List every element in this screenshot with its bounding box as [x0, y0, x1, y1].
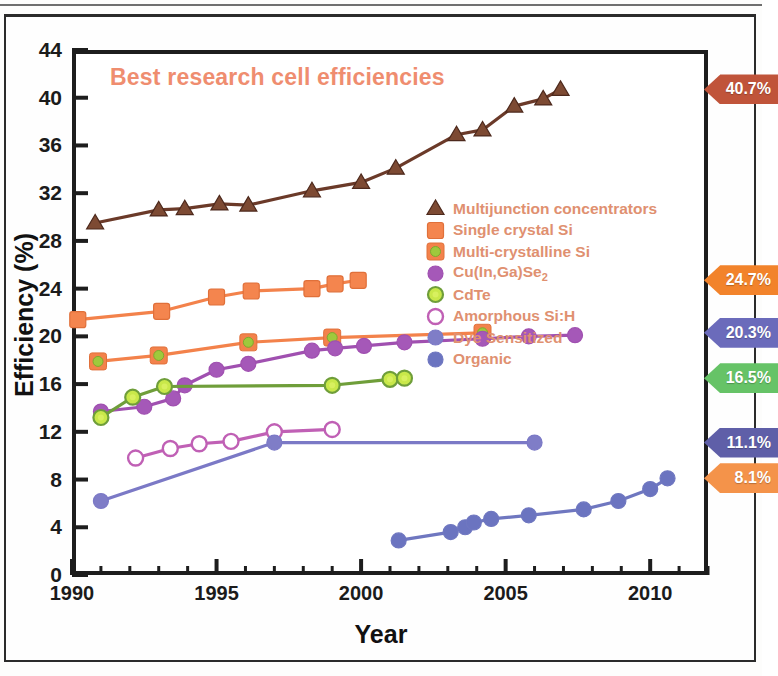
legend-item-3[interactable]: Multi-crystalline Si [427, 241, 657, 263]
legend-item-7[interactable]: Dye Sensitized [427, 327, 657, 349]
series-2 [70, 272, 366, 327]
y-tick-label: 28 [39, 229, 62, 253]
y-axis-tick-labels: 048121620242832364044 [0, 50, 62, 575]
data-point [428, 330, 443, 345]
data-point [93, 356, 103, 366]
legend-label: Multi-crystalline Si [453, 243, 590, 261]
legend-marker-icon [427, 308, 444, 325]
legend-marker-icon [427, 351, 444, 368]
y-tick-label: 44 [39, 38, 62, 62]
data-point [328, 341, 343, 356]
data-point [521, 508, 536, 523]
x-tick-label: 1990 [50, 582, 95, 605]
data-point [70, 312, 86, 328]
annotation-label: 40.7% [726, 80, 771, 98]
legend-marker-icon [427, 200, 444, 217]
data-point [304, 281, 320, 297]
data-point [643, 482, 658, 497]
annotation-label: 20.3% [726, 324, 771, 342]
data-point [267, 435, 282, 450]
data-point [224, 434, 239, 449]
legend-label: Organic [453, 350, 512, 368]
page-scan-line [0, 4, 762, 6]
x-tick-label: 2000 [339, 582, 384, 605]
legend-item-2[interactable]: Single crystal Si [427, 220, 657, 242]
data-point [209, 362, 224, 377]
data-point [154, 350, 164, 360]
data-point [387, 160, 404, 175]
data-point [163, 441, 178, 456]
annotation-label: 24.7% [726, 271, 771, 289]
y-tick-label: 40 [39, 86, 62, 110]
data-point [660, 471, 675, 486]
legend-marker-icon [427, 222, 444, 239]
data-point [535, 90, 552, 105]
legend-label: Cu(In,Ga)Se2 [453, 263, 548, 283]
data-point [466, 515, 481, 530]
data-point [93, 494, 108, 509]
data-point [130, 394, 136, 400]
y-tick-label: 4 [50, 515, 62, 539]
data-point [329, 382, 335, 388]
legend-marker-icon [427, 265, 444, 282]
chart-title: Best research cell efficiencies [110, 64, 445, 91]
legend-label: Dye Sensitized [453, 329, 562, 347]
legend-item-6[interactable]: Amorphous Si:H [427, 306, 657, 328]
y-tick-label: 20 [39, 324, 62, 348]
data-point [527, 435, 542, 450]
data-point [243, 283, 259, 299]
y-tick-label: 36 [39, 133, 62, 157]
legend-label: CdTe [453, 286, 491, 304]
legend-label: Single crystal Si [453, 221, 573, 239]
series-7 [93, 435, 542, 508]
data-point [356, 338, 371, 353]
data-point [427, 200, 444, 215]
plot-area: Best research cell efficiencies Multijun… [72, 50, 708, 575]
data-point [428, 352, 443, 367]
data-point [128, 451, 143, 466]
y-tick-label: 16 [39, 372, 62, 396]
data-point [243, 337, 253, 347]
legend-item-4[interactable]: Cu(In,Ga)Se2 [427, 263, 657, 285]
legend-marker-icon [427, 286, 444, 303]
legend-marker-icon [427, 243, 444, 260]
data-point [428, 266, 443, 281]
legend-label: Amorphous Si:H [453, 307, 575, 325]
y-tick-label: 8 [50, 468, 62, 492]
data-point [209, 289, 225, 305]
y-tick-label: 32 [39, 181, 62, 205]
x-tick-label: 1995 [194, 582, 239, 605]
series-8 [391, 471, 675, 548]
annotation-label: 16.5% [726, 369, 771, 387]
data-point [433, 292, 439, 298]
x-axis-label: Year [0, 620, 762, 649]
annotation-label: 11.1% [727, 434, 771, 452]
data-point [552, 81, 569, 96]
data-point [397, 335, 412, 350]
data-point [304, 343, 319, 358]
data-point [428, 309, 443, 324]
data-point [431, 247, 441, 257]
data-point [576, 502, 591, 517]
data-point [325, 422, 340, 437]
chart-legend: Multijunction concentratorsSingle crysta… [427, 198, 657, 370]
legend-item-1[interactable]: Multijunction concentrators [427, 198, 657, 220]
series-5 [93, 371, 412, 425]
data-point [162, 383, 168, 389]
legend-item-5[interactable]: CdTe [427, 284, 657, 306]
x-tick-label: 2010 [628, 582, 673, 605]
data-point [98, 415, 104, 421]
data-point [391, 533, 406, 548]
data-point [192, 436, 207, 451]
data-point [443, 525, 458, 540]
x-axis-tick-labels: 19901995200020052010 [72, 582, 708, 612]
data-point [401, 375, 407, 381]
data-point [154, 303, 170, 319]
data-point [484, 511, 499, 526]
legend-marker-icon [427, 329, 444, 346]
y-tick-label: 24 [39, 277, 62, 301]
legend-item-8[interactable]: Organic [427, 349, 657, 371]
data-point [350, 272, 366, 288]
data-point [327, 276, 343, 292]
